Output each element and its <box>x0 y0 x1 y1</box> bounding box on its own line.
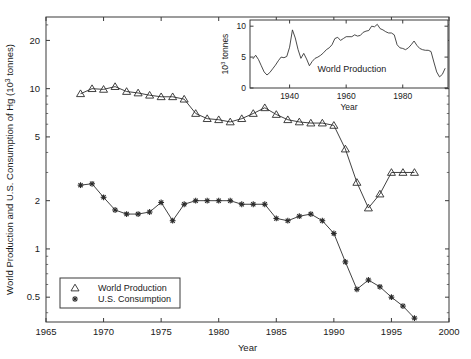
inset-x-tick-label: 1940 <box>280 91 299 101</box>
inset-y-tick-label: 5 <box>241 52 246 62</box>
x-axis-label: Year <box>238 342 257 353</box>
series-1 <box>77 83 419 211</box>
marker-asterisk <box>321 220 323 222</box>
marker-asterisk <box>333 232 335 234</box>
inset-plot-frame <box>250 20 448 88</box>
marker-triangle <box>169 93 177 100</box>
marker-asterisk <box>264 203 266 205</box>
figure-root: 19651970197519801985199019952000Year0.51… <box>0 0 471 359</box>
x-tick-label: 1975 <box>151 326 172 337</box>
y-tick-label: 5 <box>35 131 40 142</box>
inset-x-axis-label: Year <box>340 102 357 112</box>
marker-asterisk <box>137 213 139 215</box>
y-tick-label: 0.5 <box>27 291 40 302</box>
series-markers-1 <box>77 83 419 211</box>
marker-asterisk <box>275 218 277 220</box>
inset-y-tick-label: 10 <box>237 21 247 31</box>
marker-triangle <box>387 169 395 176</box>
x-tick-label: 1970 <box>93 326 114 337</box>
marker-asterisk <box>241 203 243 205</box>
marker-asterisk <box>160 202 162 204</box>
x-tick-label: 1995 <box>381 326 402 337</box>
inset-axes: 194019601980Year0510103 tonnesWorld Prod… <box>219 20 449 112</box>
x-tick-label: 1980 <box>208 326 229 337</box>
marker-asterisk <box>206 200 208 202</box>
marker-asterisk <box>229 200 231 202</box>
marker-asterisk <box>172 220 174 222</box>
marker-asterisk <box>126 213 128 215</box>
marker-triangle <box>88 85 96 92</box>
series-line-1 <box>81 87 415 208</box>
x-tick-label: 1985 <box>266 326 287 337</box>
marker-asterisk <box>368 279 370 281</box>
marker-asterisk <box>80 184 82 186</box>
marker-asterisk <box>310 213 312 215</box>
marker-asterisk <box>114 209 116 211</box>
y-tick-label: 1 <box>35 243 40 254</box>
inset-annotation: World Production <box>317 64 386 74</box>
x-tick-label: 1965 <box>35 326 56 337</box>
marker-asterisk <box>414 317 416 319</box>
legend-label-2: U.S. Consumption <box>98 294 171 304</box>
inset-y-tick-label: 0 <box>241 83 246 93</box>
y-tick-label: 10 <box>29 83 40 94</box>
marker-asterisk <box>402 305 404 307</box>
marker-triangle <box>399 169 407 176</box>
marker-asterisk <box>298 215 300 217</box>
marker-asterisk <box>287 220 289 222</box>
marker-asterisk <box>252 203 254 205</box>
marker-asterisk <box>195 200 197 202</box>
legend-label-1: World Production <box>98 283 167 293</box>
marker-asterisk <box>74 298 76 300</box>
marker-asterisk <box>91 183 93 185</box>
y-tick-label: 2 <box>35 195 40 206</box>
marker-asterisk <box>379 286 381 288</box>
marker-triangle <box>111 83 119 90</box>
x-tick-label: 2000 <box>438 326 459 337</box>
inset-y-axis-label: 103 tonnes <box>219 34 231 75</box>
marker-triangle <box>410 169 418 176</box>
y-tick-label: 20 <box>29 35 40 46</box>
marker-asterisk <box>344 261 346 263</box>
main-axes: 19651970197519801985199019952000Year0.51… <box>4 17 460 353</box>
y-axis-label: World Production and U.S. Consumption of… <box>4 44 16 295</box>
marker-triangle <box>318 119 326 126</box>
x-tick-label: 1990 <box>323 326 344 337</box>
marker-asterisk <box>218 200 220 202</box>
marker-asterisk <box>149 211 151 213</box>
marker-asterisk <box>356 288 358 290</box>
chart-canvas: 19651970197519801985199019952000Year0.51… <box>0 0 471 359</box>
inset-x-tick-label: 1960 <box>337 91 356 101</box>
legend: World ProductionU.S. Consumption <box>60 278 180 308</box>
inset-x-tick-label: 1980 <box>393 91 412 101</box>
marker-asterisk <box>183 203 185 205</box>
marker-asterisk <box>103 196 105 198</box>
marker-asterisk <box>391 296 393 298</box>
